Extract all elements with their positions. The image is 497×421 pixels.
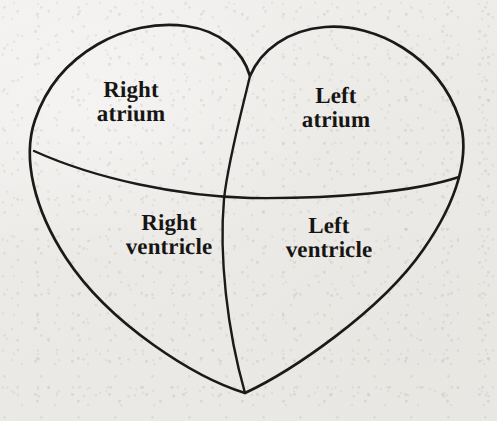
label-right-ventricle-line2: ventricle xyxy=(98,235,240,259)
label-left-atrium-line1: Left xyxy=(272,84,400,108)
label-right-ventricle-line1: Right xyxy=(98,211,240,235)
label-right-atrium: Right atrium xyxy=(64,78,198,126)
label-left-ventricle-line1: Left xyxy=(257,214,401,238)
label-left-ventricle-line2: ventricle xyxy=(257,238,401,262)
label-left-ventricle: Left ventricle xyxy=(257,214,401,262)
heart-outline-svg xyxy=(0,0,497,421)
label-right-atrium-line1: Right xyxy=(64,78,198,102)
heart-diagram-figure: Right atrium Left atrium Right ventricle… xyxy=(0,0,497,421)
label-left-atrium-line2: atrium xyxy=(272,108,400,132)
label-right-atrium-line2: atrium xyxy=(64,102,198,126)
label-left-atrium: Left atrium xyxy=(272,84,400,132)
label-right-ventricle: Right ventricle xyxy=(98,211,240,259)
atrioventricular-divider-line xyxy=(34,151,459,198)
